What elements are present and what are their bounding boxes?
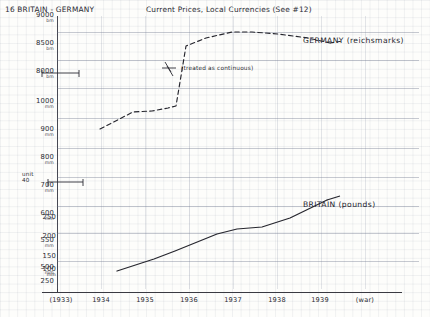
x-tick-1936: 1936: [180, 296, 198, 304]
x-tick-1934: 1934: [92, 296, 110, 304]
y-tick-9000: 9000 bm: [36, 12, 54, 24]
gridline-vertical: [101, 16, 102, 289]
gridline-vertical: [321, 16, 322, 289]
gridline-vertical: [145, 16, 146, 289]
chart-subtitle: Current Prices, Local Currencies (See #1…: [146, 5, 312, 14]
y-tick-700: 700 mm: [40, 182, 54, 194]
unit-note-line-2: 40: [22, 177, 30, 183]
x-tick-1937: 1937: [224, 296, 242, 304]
y-tick-100-label: 100 mm: [34, 266, 56, 277]
gridline-vertical: [365, 16, 366, 289]
axis-break-note: (treated as continuous): [181, 65, 253, 71]
chart-page: 16 BRITAIN - GERMANY Current Prices, Loc…: [0, 0, 430, 317]
series-label-germany: GERMANY (reichsmarks): [303, 36, 404, 45]
x-tick-1938: 1938: [268, 296, 286, 304]
x-tick-1933: (1933): [49, 296, 72, 304]
y-tick-150-label: 150: [34, 245, 56, 261]
gridline-vertical: [189, 16, 190, 289]
gridline-vertical: [57, 16, 58, 289]
y-tick-8000: 8000 bm: [36, 68, 54, 80]
x-axis-line: [42, 292, 402, 293]
unit-scale-note: unit 40: [22, 172, 34, 184]
y-tick-200-label: 200: [34, 225, 56, 241]
y-tick-800: 800 mm: [40, 154, 54, 166]
y-tick-8500: 8500 bm: [36, 40, 54, 52]
y-tick-250-label: 250: [34, 206, 56, 222]
x-tick-1939: 1939: [311, 296, 329, 304]
y-tick-1000: 1000 mm: [36, 98, 54, 110]
y-tick-900: 900 mm: [40, 126, 54, 138]
gridline-vertical: [277, 16, 278, 289]
x-tick-war: (war): [356, 296, 374, 304]
x-tick-1935: 1935: [136, 296, 154, 304]
series-label-britain: BRITAIN (pounds): [303, 200, 376, 209]
plot-area: 9000 bm 8500 bm 8000 bm 1000 mm 900 mm 8…: [57, 16, 419, 289]
gridline-vertical: [233, 16, 234, 289]
